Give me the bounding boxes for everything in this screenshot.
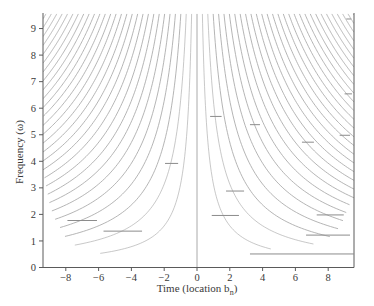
x-tick-label: −8: [60, 272, 71, 283]
y-tick-label: 5: [31, 129, 36, 140]
time-frequency-chart: −8−6−4−202468 0123456789 Time (location …: [0, 0, 374, 306]
x-tick-label: 6: [293, 272, 298, 283]
hyperbola-curve: [251, 14, 354, 180]
hyperbola-curve: [229, 14, 346, 213]
hyperbola-curve: [267, 14, 354, 154]
y-tick-label: 3: [31, 182, 36, 193]
x-tick-label: 4: [260, 272, 266, 283]
y-tick-label: 1: [31, 236, 36, 247]
hyperbola-curve: [43, 14, 78, 72]
x-ticks: −8−6−4−202468: [60, 268, 331, 284]
hyperbola-curve: [75, 14, 186, 245]
hyperbola-curve: [43, 14, 132, 161]
x-axis-label-main: Time (location b: [157, 282, 230, 295]
hyperbola-curve: [65, 14, 181, 236]
horizontal-segments: [67, 19, 353, 254]
y-tick-label: 7: [31, 76, 36, 87]
x-tick-label: −4: [126, 272, 138, 283]
y-tick-label: 9: [31, 23, 36, 34]
hyperbola-curve: [343, 14, 354, 32]
hyperbola-curve: [202, 14, 270, 249]
hyperbola-curve: [326, 14, 353, 58]
x-axis-label: Time (location bn): [157, 282, 238, 297]
y-axis-label: Frequency (ω): [13, 120, 26, 184]
x-axis-label-close: ): [234, 282, 238, 295]
hyperbola-curve: [321, 14, 354, 67]
y-tick-label: 0: [31, 262, 36, 273]
y-tick-label: 8: [31, 50, 36, 61]
hyperbola-curve: [43, 14, 84, 81]
hyperbola-curve: [43, 14, 68, 54]
hyperbola-curve: [289, 14, 354, 119]
hyperbola-curve: [208, 14, 314, 244]
y-tick-label: 2: [31, 209, 36, 220]
hyperbola-curve: [55, 14, 170, 219]
y-tick-label: 4: [31, 156, 37, 167]
y-tick-label: 6: [31, 103, 36, 114]
x-tick-label: −6: [93, 272, 104, 283]
x-tick-label: 8: [326, 272, 331, 283]
hyperbola-curve: [262, 14, 354, 163]
hyperbola-curves: [43, 14, 354, 253]
hyperbola-curve: [60, 14, 175, 228]
y-ticks: 0123456789: [31, 23, 43, 273]
hyperbola-curve: [43, 14, 57, 37]
